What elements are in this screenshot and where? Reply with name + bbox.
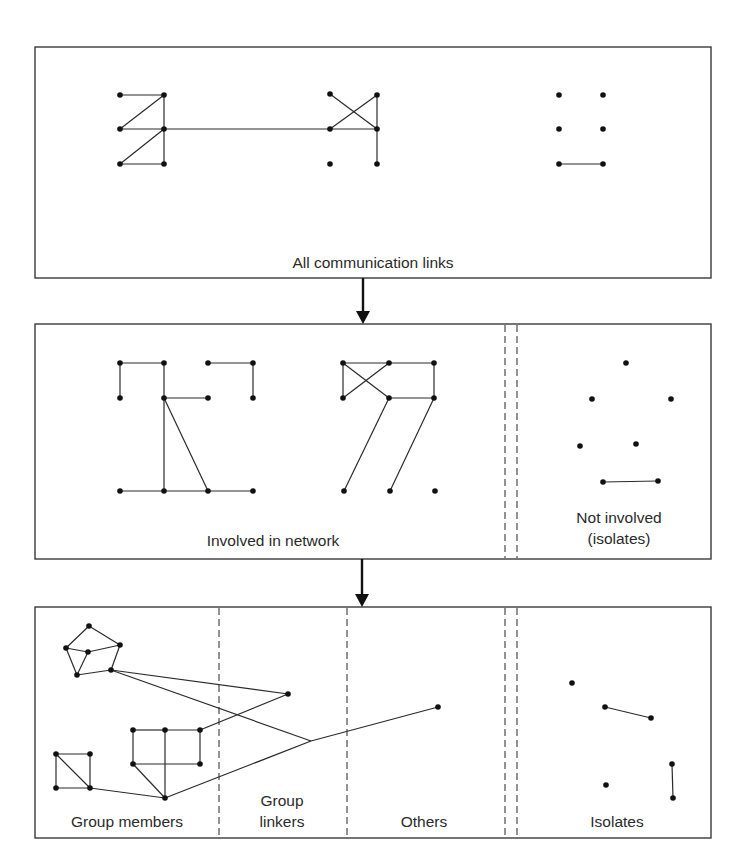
communication-link [89,626,120,645]
panel-frame [35,47,711,278]
person-node [577,443,583,449]
person-node [668,396,674,402]
communication-link [164,398,208,491]
communication-link [200,694,288,730]
person-node [161,395,167,401]
communication-link [77,652,88,675]
person-node [130,727,136,733]
person-node [432,488,438,494]
person-node [374,126,380,132]
person-node [87,751,93,757]
panel-involved-vs-isolates: Involved in networkNot involved(isolates… [35,324,711,559]
person-node [117,161,123,167]
down-arrow-icon [355,594,369,607]
person-node [327,91,333,97]
section-label: Involved in network [207,532,340,549]
person-node [589,396,595,402]
section-label: linkers [260,813,305,830]
person-node [327,161,333,167]
person-node [569,680,575,686]
section-label: Group [260,792,303,809]
person-node [85,649,91,655]
person-node [374,92,380,98]
person-node [197,727,203,733]
communication-link [311,707,438,741]
communication-link [603,481,658,482]
person-node [655,478,661,484]
communication-link [344,398,389,491]
person-node [340,360,346,366]
person-node [74,672,80,678]
communication-link [165,741,311,798]
person-node [205,395,211,401]
person-node [669,761,675,767]
person-node [205,360,211,366]
section-label: Group members [71,813,183,830]
communication-link [605,707,651,718]
person-node [670,795,676,801]
person-node [117,126,123,132]
person-node [250,488,256,494]
person-node [117,395,123,401]
communication-link [111,670,288,694]
person-node [603,782,609,788]
down-arrow-icon [356,311,370,324]
person-node [340,395,346,401]
person-node [386,395,392,401]
person-node [161,161,167,167]
communication-link [77,670,111,675]
section-label: All communication links [292,254,453,271]
person-node [117,642,123,648]
section-label: Isolates [590,813,644,830]
person-node [53,751,59,757]
person-node [108,667,114,673]
person-node [162,795,168,801]
communication-link [111,645,120,670]
person-node [117,488,123,494]
person-node [602,704,608,710]
person-node [63,645,69,651]
communication-link [66,648,77,675]
person-node [600,161,606,167]
person-node [623,360,629,366]
person-node [117,92,123,98]
person-node [341,488,347,494]
person-node [386,360,392,366]
person-node [197,761,203,767]
person-node [600,92,606,98]
person-node [130,761,136,767]
person-node [387,488,393,494]
person-node [600,479,606,485]
person-node [205,488,211,494]
communication-link [120,129,164,164]
communication-link [672,764,673,798]
person-node [648,715,654,721]
communication-link [88,645,120,652]
section-label: (isolates) [588,530,651,547]
person-node [327,126,333,132]
section-label: Not involved [576,509,661,526]
person-node [161,126,167,132]
person-node [161,488,167,494]
network-analysis-diagram: All communication links Involved in netw… [0,0,748,864]
communication-link [90,788,165,798]
person-node [86,623,92,629]
person-node [250,360,256,366]
person-node [556,161,562,167]
person-node [53,785,59,791]
person-node [633,441,639,447]
person-node [161,360,167,366]
communication-link [133,764,165,798]
person-node [374,161,380,167]
communication-link [120,95,164,129]
panel-network-roles: Group membersGrouplinkersOthersIsolates [35,607,711,838]
person-node [161,92,167,98]
person-node [600,126,606,132]
communication-link [390,398,434,491]
person-node [250,395,256,401]
person-node [556,92,562,98]
communication-link [56,754,90,788]
communication-link [66,648,88,652]
person-node [117,360,123,366]
person-node [431,395,437,401]
